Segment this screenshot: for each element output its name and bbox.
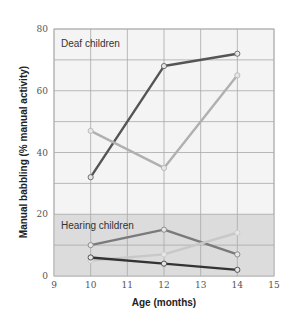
y-tick: 20 bbox=[37, 209, 49, 219]
y-tick: 0 bbox=[42, 271, 48, 281]
data-point bbox=[235, 51, 240, 56]
data-point bbox=[161, 165, 166, 170]
data-point bbox=[88, 175, 93, 180]
data-point bbox=[88, 255, 93, 260]
y-tick: 60 bbox=[37, 86, 49, 96]
data-point bbox=[88, 128, 93, 133]
hearing-children-label: Hearing children bbox=[61, 220, 134, 231]
data-point bbox=[161, 227, 166, 232]
x-tick: 14 bbox=[232, 280, 244, 290]
x-axis-label: Age (months) bbox=[132, 297, 196, 308]
line-chart: 9101112131415020406080 Deaf children Hea… bbox=[0, 0, 289, 325]
deaf-children-label: Deaf children bbox=[61, 38, 120, 49]
data-point bbox=[161, 261, 166, 266]
data-point bbox=[88, 243, 93, 248]
data-point bbox=[235, 230, 240, 235]
data-point bbox=[235, 252, 240, 257]
x-tick: 15 bbox=[268, 280, 280, 290]
x-tick: 9 bbox=[51, 280, 57, 290]
data-point bbox=[235, 267, 240, 272]
x-tick: 12 bbox=[158, 280, 169, 290]
x-tick: 10 bbox=[85, 280, 97, 290]
y-axis-label: Manual babbling (% manual activity) bbox=[18, 66, 29, 238]
y-tick: 80 bbox=[37, 24, 49, 34]
data-point bbox=[161, 252, 166, 257]
data-point bbox=[235, 73, 240, 78]
x-tick: 13 bbox=[195, 280, 207, 290]
y-tick: 40 bbox=[37, 148, 49, 158]
x-tick: 11 bbox=[122, 280, 133, 290]
data-point bbox=[161, 63, 166, 68]
